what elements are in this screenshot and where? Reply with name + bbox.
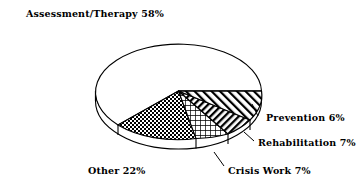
pie-label-rehabilitation: Rehabilitation 7% (258, 138, 356, 148)
pie-label-other: Other 22% (88, 166, 146, 176)
pie-label-prevention: Prevention 6% (266, 113, 345, 123)
leader-line-crisis-work (214, 152, 224, 166)
pie-top-face (96, 44, 262, 140)
leader-line-rehabilitation (244, 132, 254, 141)
pie-chart-figure: Assessment/Therapy 58% Prevention 6% Reh… (0, 0, 361, 193)
pie-label-assessment-therapy: Assessment/Therapy 58% (26, 9, 164, 19)
pie-label-crisis-work: Crisis Work 7% (228, 166, 311, 176)
